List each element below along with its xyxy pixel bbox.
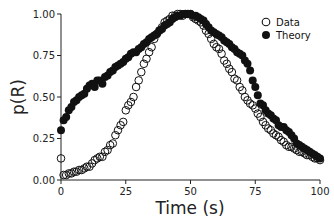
data-point [138, 68, 146, 76]
y-tick-label: 1.00 [33, 9, 55, 20]
legend-item-theory: Theory [262, 30, 311, 41]
x-axis: 0255075100 Time (s) [58, 180, 330, 218]
data-point [109, 140, 117, 148]
x-ticks: 0255075100 [58, 180, 330, 197]
x-tick-label: 0 [58, 186, 64, 197]
legend-label: Theory [275, 30, 311, 41]
x-tick-label: 100 [310, 186, 329, 197]
legend-item-data: Data [262, 17, 300, 28]
x-tick-label: 50 [184, 186, 197, 197]
data-point [246, 66, 254, 74]
x-tick-label: 75 [249, 186, 262, 197]
open-circle-icon [262, 18, 270, 26]
data-point [254, 91, 262, 99]
x-tick-label: 25 [119, 186, 132, 197]
x-axis-title: Time (s) [154, 198, 224, 218]
y-tick-label: 0.75 [33, 50, 55, 61]
data-point [251, 83, 259, 91]
y-tick-label: 0.25 [33, 133, 55, 144]
data-point [57, 126, 65, 134]
filled-circle-icon [262, 31, 270, 39]
y-axis-title: p(R) [8, 79, 28, 115]
legend-label: Data [276, 17, 300, 28]
y-tick-label: 0.00 [33, 175, 55, 186]
chart: 0.000.250.500.751.00 p(R) 0255075100 Tim… [0, 0, 334, 221]
y-tick-label: 0.50 [33, 92, 55, 103]
y-axis: 0.000.250.500.751.00 p(R) [8, 9, 61, 186]
legend: Data Theory [262, 17, 311, 41]
data-point [135, 77, 143, 85]
data-point [231, 75, 239, 83]
data-point [81, 165, 89, 173]
